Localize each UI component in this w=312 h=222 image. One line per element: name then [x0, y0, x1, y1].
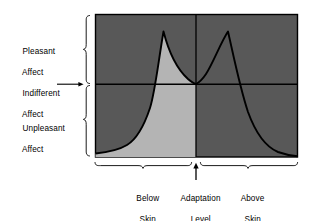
label-pleasant-affect-line2: Affect	[22, 68, 43, 77]
pleasant-affect-brace	[83, 16, 89, 84]
below-skin-temperature-brace	[95, 163, 192, 169]
figure-root: Pleasant Affect Indifferent Affect Unple…	[0, 0, 312, 221]
label-above-skin-temperature-line2: Skin	[245, 215, 261, 222]
label-unpleasant-affect-line1: Unpleasant	[23, 124, 65, 133]
label-below-skin-temperature-line2: Skin	[140, 215, 156, 222]
label-unpleasant-affect: Unpleasant Affect	[13, 113, 65, 166]
label-unpleasant-affect-line2: Affect	[22, 145, 43, 154]
label-indifferent-affect-line1: Indifferent	[23, 89, 60, 98]
indifferent-affect-arrow-head	[78, 82, 83, 87]
label-below-skin-temperature-line1: Below	[136, 194, 159, 203]
above-skin-temperature-brace	[200, 163, 297, 169]
label-above-skin-temperature-line1: Above	[241, 194, 265, 203]
unpleasant-affect-brace	[83, 86, 89, 157]
label-above-skin-temperature: Above Skin Temperature	[208, 183, 288, 221]
adaptation-level-arrow-head	[193, 163, 198, 169]
label-pleasant-affect-line1: Pleasant	[23, 47, 56, 56]
